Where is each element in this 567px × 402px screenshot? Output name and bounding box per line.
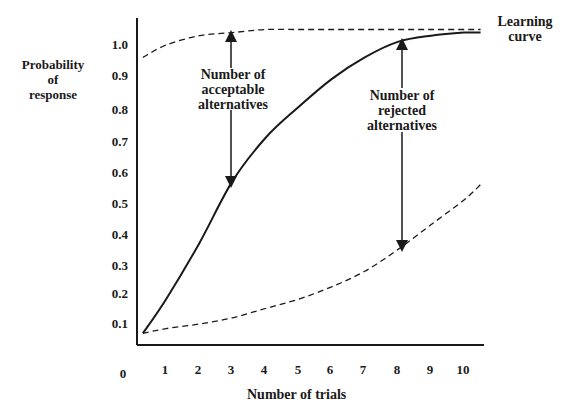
rejected-alternatives-label: Number of rejected alternatives bbox=[359, 88, 445, 133]
x-tick-label: 9 bbox=[420, 362, 440, 378]
annotation-line: rejected bbox=[359, 103, 445, 118]
x-tick-label: 1 bbox=[155, 362, 175, 378]
acceptable-alternatives-label: Number of acceptable alternatives bbox=[190, 67, 276, 112]
learning-curve-label-line: curve bbox=[490, 29, 560, 44]
x-axis-label: Number of trials bbox=[247, 387, 346, 402]
x-tick-label: 7 bbox=[353, 362, 373, 378]
y-tick-label: 1.0 bbox=[98, 37, 128, 53]
y-axis-label-line: of bbox=[18, 72, 88, 87]
y-tick-label: 0.4 bbox=[98, 227, 128, 243]
x-tick-label: 6 bbox=[320, 362, 340, 378]
y-tick-label: 0.2 bbox=[98, 286, 128, 302]
x-tick-label: 8 bbox=[387, 362, 407, 378]
y-tick-label: 0.8 bbox=[98, 102, 128, 118]
y-tick-label: 0.7 bbox=[98, 134, 128, 150]
x-tick-label: 10 bbox=[453, 362, 473, 378]
y-tick-label: 0.9 bbox=[98, 68, 128, 84]
y-axis-label: Probability of response bbox=[18, 57, 88, 102]
x-tick-label: 2 bbox=[188, 362, 208, 378]
learning-curve-label-line: Learning bbox=[490, 14, 560, 29]
annotation-line: alternatives bbox=[190, 97, 276, 112]
annotation-line: acceptable bbox=[190, 82, 276, 97]
y-axis-label-line: response bbox=[18, 87, 88, 102]
annotation-line: Number of bbox=[359, 88, 445, 103]
x-tick-label: 0 bbox=[113, 366, 133, 382]
y-tick-label: 0.5 bbox=[98, 196, 128, 212]
annotation-line: alternatives bbox=[359, 118, 445, 133]
rejected-boundary-line bbox=[143, 185, 481, 334]
y-tick-label: 0.3 bbox=[98, 258, 128, 274]
annotation-line: Number of bbox=[190, 67, 276, 82]
learning-curve-label: Learning curve bbox=[490, 14, 560, 44]
acceptable-boundary-line bbox=[143, 29, 481, 57]
x-tick-label: 4 bbox=[254, 362, 274, 378]
x-tick-label: 3 bbox=[221, 362, 241, 378]
y-tick-label: 0.6 bbox=[98, 165, 128, 181]
y-tick-label: 0.1 bbox=[98, 316, 128, 332]
x-tick-label: 5 bbox=[288, 362, 308, 378]
y-axis-label-line: Probability bbox=[18, 57, 88, 72]
